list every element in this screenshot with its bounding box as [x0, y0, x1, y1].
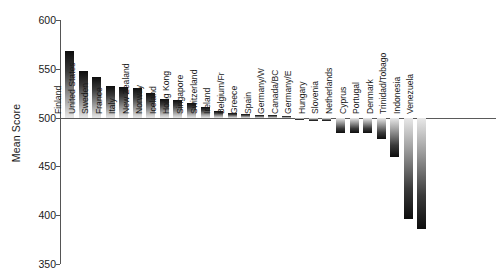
x-tick-label: Sweden [80, 4, 91, 114]
x-tick-label: Trinidad/Tobago [378, 4, 389, 114]
x-tick-label: Indonesia [392, 4, 403, 114]
bar [282, 116, 291, 118]
x-tick-label: Denmark [365, 4, 376, 114]
x-tick-label: Singapore [175, 4, 186, 114]
bar [417, 118, 426, 229]
x-tick-label: Switzerland [189, 4, 200, 114]
reference-line-500 [60, 118, 496, 119]
y-axis-tick-labels: 600550500450400350 [24, 0, 56, 265]
x-tick-label: Venezuela [405, 4, 416, 114]
y-tick-mark-450 [56, 166, 60, 167]
y-axis-title: Mean Score [6, 0, 26, 265]
x-tick-label-wrap: Venezuela [416, 0, 427, 114]
bar [390, 118, 399, 157]
bar [322, 118, 331, 122]
x-tick-label: Spain [243, 4, 254, 114]
x-tick-label: New Zealand [121, 4, 132, 114]
x-tick-label: Hong Kong [161, 4, 172, 114]
y-axis-title-text: Mean Score [10, 103, 22, 162]
x-tick-label: Ireland [202, 4, 213, 114]
x-tick-label: Germany/E [283, 4, 294, 114]
x-tick-label: Netherlands [324, 4, 335, 114]
x-tick-label: Canada/BC [270, 4, 281, 114]
bar [377, 118, 386, 139]
x-tick-label: Italy [107, 4, 118, 114]
bar [255, 115, 264, 118]
x-tick-label: Greece [229, 4, 240, 114]
y-tick-label-350: 350 [38, 258, 56, 270]
bar [268, 115, 277, 118]
x-tick-label: Norway [134, 4, 145, 114]
y-tick-label-450: 450 [38, 160, 56, 172]
x-tick-label: Hungary [297, 4, 308, 114]
bar [241, 114, 250, 118]
bar [309, 118, 318, 121]
x-tick-label: Iceland [148, 4, 159, 114]
x-tick-label: Germany/W [256, 4, 267, 114]
x-tick-label: France [94, 4, 105, 114]
x-tick-label: United States [67, 4, 78, 114]
y-tick-mark-350 [56, 264, 60, 265]
y-tick-mark-500 [56, 118, 60, 119]
x-tick-label: Slovenia [310, 4, 321, 114]
bar [404, 118, 413, 220]
bar [363, 118, 372, 134]
y-tick-mark-600 [56, 20, 60, 21]
x-tick-label: Cyprus [338, 4, 349, 114]
bar [336, 118, 345, 134]
y-tick-mark-550 [56, 69, 60, 70]
x-tick-label: Portugal [351, 4, 362, 114]
y-tick-mark-400 [56, 215, 60, 216]
bar [295, 118, 304, 120]
y-tick-label-400: 400 [38, 209, 56, 221]
bar [350, 118, 359, 134]
x-tick-label: Belgium/Fr [216, 4, 227, 114]
plot-area: FinlandUnited StatesSwedenFranceItalyNew… [60, 0, 499, 265]
